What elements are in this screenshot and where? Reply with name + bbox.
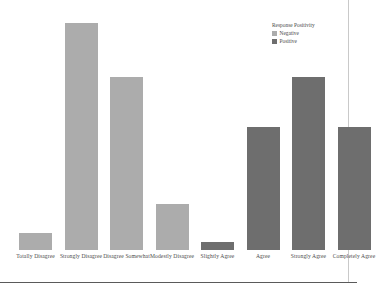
legend-title: Response Positivity bbox=[272, 22, 342, 29]
x-tick-label: Strongly Disagree bbox=[58, 253, 105, 261]
bar-modestly-disagree[interactable] bbox=[156, 204, 189, 250]
bar-slightly-agree[interactable] bbox=[201, 242, 234, 250]
x-tick-label: Completely Agree bbox=[331, 253, 378, 261]
legend-swatch-icon bbox=[272, 39, 277, 44]
x-tick-label: Agree bbox=[240, 253, 287, 261]
bar-agree[interactable] bbox=[247, 127, 280, 250]
x-tick-label: Strongly Agree bbox=[285, 253, 332, 261]
legend-item[interactable]: Positive bbox=[272, 38, 342, 45]
bar-rect bbox=[156, 204, 189, 250]
bar-rect bbox=[201, 242, 234, 250]
figure-border-bottom bbox=[0, 282, 357, 283]
legend-items: NegativePositive bbox=[272, 30, 342, 45]
bar-rect bbox=[110, 77, 143, 250]
bar-rect bbox=[65, 23, 98, 250]
bar-completely-agree[interactable] bbox=[338, 127, 371, 250]
bar-rect bbox=[292, 77, 325, 250]
x-tick-label: Modestly Disagree bbox=[149, 253, 196, 261]
legend-item-label: Positive bbox=[280, 38, 297, 45]
x-tick-label: Totally Disagree bbox=[12, 253, 59, 261]
bar-rect bbox=[19, 233, 52, 250]
bar-totally-disagree[interactable] bbox=[19, 233, 52, 250]
bar-strongly-agree[interactable] bbox=[292, 77, 325, 250]
legend-swatch-icon bbox=[272, 31, 277, 36]
legend-item[interactable]: Negative bbox=[272, 30, 342, 37]
bar-rect bbox=[247, 127, 280, 250]
x-axis-tick-labels: Totally DisagreeStrongly DisagreeDisagre… bbox=[0, 253, 349, 281]
legend-item-label: Negative bbox=[280, 30, 299, 37]
x-tick-label: Slightly Agree bbox=[194, 253, 241, 261]
legend: Response Positivity NegativePositive bbox=[272, 22, 342, 45]
bar-disagree-somewhat[interactable] bbox=[110, 77, 143, 250]
bar-strongly-disagree[interactable] bbox=[65, 23, 98, 250]
bar-rect bbox=[338, 127, 371, 250]
x-tick-label: Disagree Somewhat bbox=[103, 253, 150, 261]
